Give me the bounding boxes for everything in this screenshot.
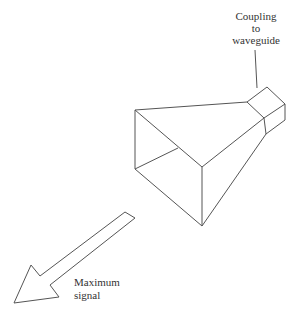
horn-mouth-bottom-edge (135, 169, 202, 226)
horn-inner-edge (135, 148, 178, 169)
coupling-label-line-1: Coupling (236, 10, 277, 22)
horn-bottom-flare (202, 134, 266, 226)
coupling-label-line-2: to (252, 22, 261, 34)
waveguide-top-face (247, 87, 285, 118)
horn-top-flare (135, 102, 247, 110)
signal-label-line-2: signal (74, 289, 100, 301)
horn-mouth-top-diagonal (135, 110, 202, 167)
horn-antenna-diagram: Coupling to waveguide Maximum signal (0, 0, 297, 319)
horn-antenna (135, 102, 266, 226)
signal-label-line-1: Maximum (74, 276, 120, 288)
coupling-label-line-3: waveguide (232, 34, 280, 46)
coupling-leader-line (255, 50, 257, 88)
waveguide-right-edge (264, 104, 285, 134)
horn-front-flare (202, 118, 264, 167)
